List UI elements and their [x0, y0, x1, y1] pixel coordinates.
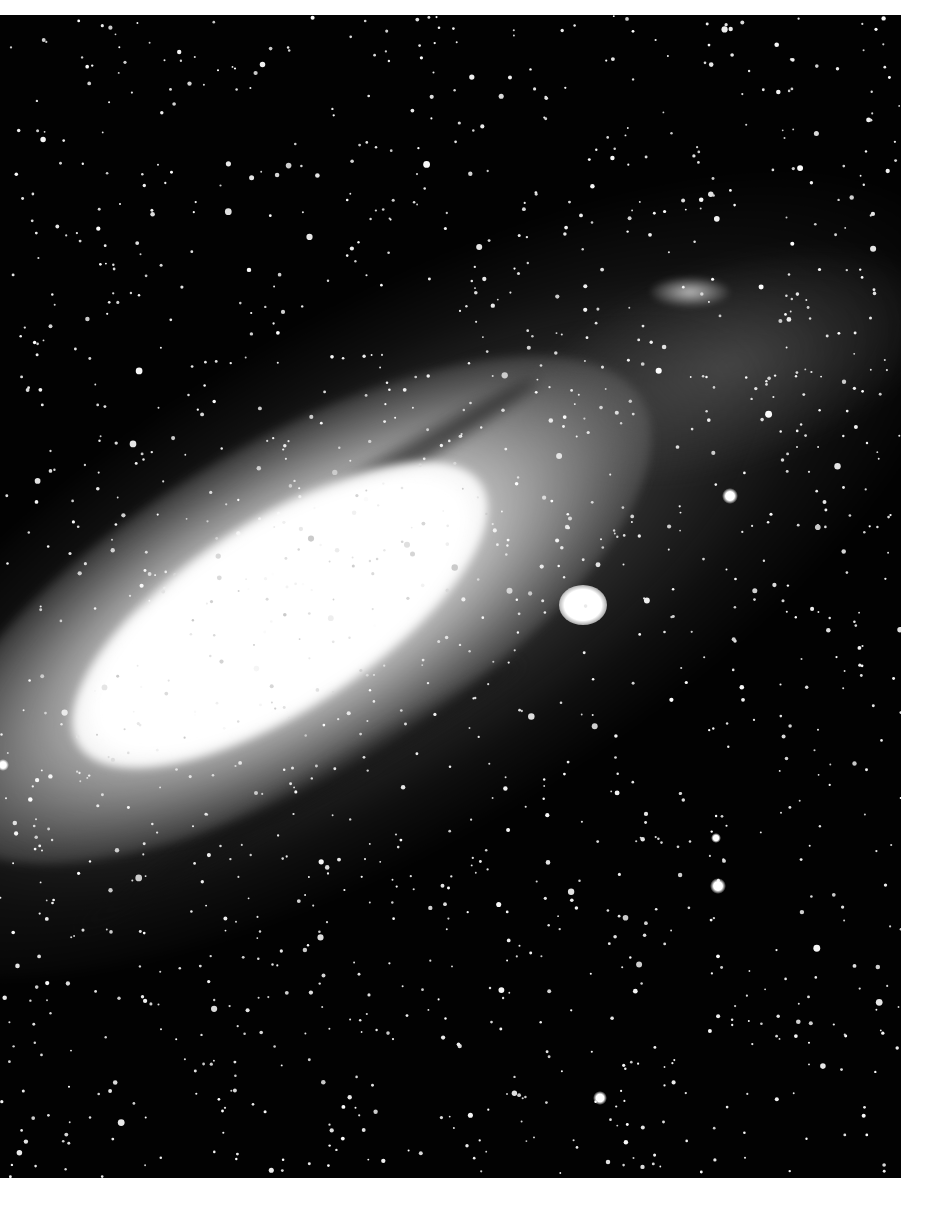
star-field	[0, 15, 901, 1178]
bright-star	[593, 1091, 607, 1105]
bright-star	[0, 759, 9, 771]
galaxy-photo	[0, 15, 901, 1178]
bright-star	[711, 833, 721, 843]
bright-star	[722, 488, 738, 504]
bright-star	[710, 878, 726, 894]
